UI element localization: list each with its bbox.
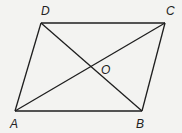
parallelogram-diagram: D C A B O xyxy=(0,0,182,133)
diagonal-bd xyxy=(41,23,142,111)
label-intersection-o: O xyxy=(101,63,110,77)
label-vertex-d: D xyxy=(41,4,50,18)
side-bc xyxy=(142,23,165,111)
label-vertex-a: A xyxy=(9,117,18,131)
label-vertex-c: C xyxy=(166,4,175,18)
label-vertex-b: B xyxy=(136,117,144,131)
